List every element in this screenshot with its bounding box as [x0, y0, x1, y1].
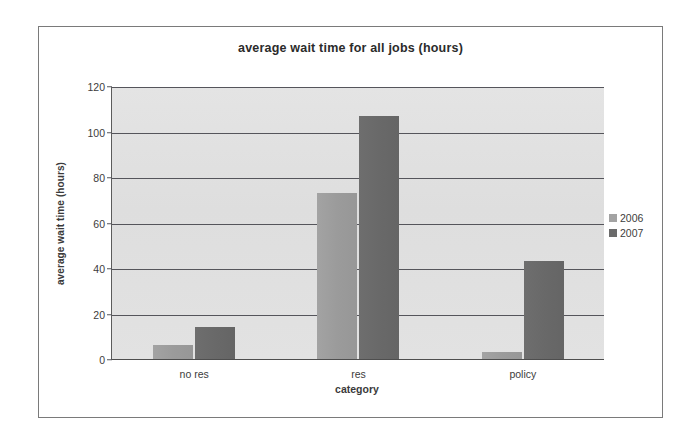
plot-area: 020406080100120no resrespolicy — [111, 87, 604, 360]
y-axis-tick-mark — [107, 359, 112, 360]
x-axis-tick-label: res — [351, 368, 366, 380]
x-axis-title: category — [111, 383, 603, 395]
bar-group: policy — [441, 87, 605, 359]
chart-title: average wait time for all jobs (hours) — [39, 41, 662, 55]
bar-res-2006[interactable] — [317, 193, 357, 359]
x-axis-tick-label: no res — [180, 368, 209, 380]
bar-group: res — [276, 87, 440, 359]
legend-item-2006[interactable]: 2006 — [609, 213, 643, 224]
y-axis-tick-label: 20 — [93, 309, 105, 321]
y-axis-tick-label: 0 — [99, 354, 105, 366]
legend-item-2007[interactable]: 2007 — [609, 228, 643, 239]
bar-policy-2006[interactable] — [482, 352, 522, 359]
bar-policy-2007[interactable] — [524, 261, 564, 359]
y-axis-tick-label: 40 — [93, 263, 105, 275]
y-axis-title: average wait time (hours) — [53, 87, 69, 359]
bar-res-2007[interactable] — [359, 116, 399, 359]
y-axis-title-label: average wait time (hours) — [56, 161, 67, 284]
legend-label: 2007 — [620, 228, 643, 239]
chart-legend: 20062007 — [609, 213, 643, 238]
bar-group: no res — [112, 87, 276, 359]
legend-swatch-icon — [609, 229, 617, 237]
chart-frame: average wait time for all jobs (hours) a… — [38, 26, 663, 418]
legend-swatch-icon — [609, 214, 617, 222]
bar-no-res-2006[interactable] — [153, 345, 193, 359]
y-axis-tick-label: 100 — [87, 127, 105, 139]
legend-label: 2006 — [620, 213, 643, 224]
y-axis-tick-label: 60 — [93, 218, 105, 230]
y-axis-tick-label: 80 — [93, 172, 105, 184]
bar-no-res-2007[interactable] — [195, 327, 235, 359]
y-axis-tick-label: 120 — [87, 81, 105, 93]
x-axis-tick-label: policy — [509, 368, 536, 380]
